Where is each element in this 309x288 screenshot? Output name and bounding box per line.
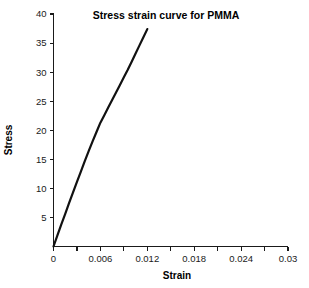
x-tick-label: 0	[51, 253, 56, 264]
x-tick-group: 00.0060.0120.0180.0240.03	[51, 247, 297, 264]
x-tick-label: 0.006	[89, 253, 113, 264]
x-tick-label: 0.03	[279, 253, 298, 264]
y-axis-group: 510152025303540	[36, 8, 54, 246]
x-tick-label: 0.012	[135, 253, 159, 264]
y-tick-label: 20	[36, 125, 47, 136]
y-tick-group: 510152025303540	[36, 8, 54, 222]
y-tick-label: 5	[41, 212, 46, 223]
y-axis-title: Stress	[3, 124, 14, 155]
y-tick-label: 35	[36, 37, 47, 48]
y-tick-label: 40	[36, 8, 47, 19]
y-tick-label: 10	[36, 183, 47, 194]
x-axis-title: Strain	[163, 270, 191, 281]
data-curve-pmma	[54, 29, 148, 246]
y-tick-label: 15	[36, 154, 47, 165]
y-tick-label: 30	[36, 67, 47, 78]
x-tick-label: 0.018	[182, 253, 206, 264]
stress-strain-plot: 510152025303540 00.0060.0120.0180.0240.0…	[0, 0, 309, 288]
x-axis-group: 00.0060.0120.0180.0240.03	[51, 247, 297, 264]
chart-container: 510152025303540 00.0060.0120.0180.0240.0…	[0, 0, 309, 288]
chart-title: Stress strain curve for PMMA	[93, 9, 240, 21]
x-tick-label: 0.024	[229, 253, 253, 264]
y-tick-label: 25	[36, 96, 47, 107]
